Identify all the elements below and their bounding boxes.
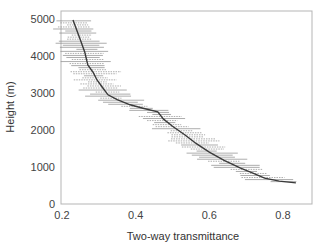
y-tick-label: 4000: [31, 50, 55, 62]
x-tick-label: 0.2: [54, 209, 69, 221]
x-axis-label: Two-way transmittance: [127, 230, 239, 242]
y-tick-label: 3000: [31, 87, 55, 99]
y-tick-label: 5000: [31, 13, 55, 25]
y-tick-label: 1000: [31, 161, 55, 173]
y-axis-label: Height (m): [4, 81, 16, 132]
x-tick-label: 0.4: [128, 209, 143, 221]
error-bars: [53, 21, 296, 182]
plot-frame: [61, 11, 312, 204]
transmittance-height-chart: 0.20.40.60.8 010002000300040005000 Two-w…: [0, 0, 329, 248]
x-tick-label: 0.8: [275, 209, 290, 221]
y-axis-ticks: 010002000300040005000: [31, 13, 55, 210]
x-tick-label: 0.6: [202, 209, 217, 221]
data-line: [73, 20, 296, 183]
y-tick-label: 0: [49, 198, 55, 210]
y-tick-label: 2000: [31, 124, 55, 136]
x-axis-ticks: 0.20.40.60.8: [54, 209, 290, 221]
